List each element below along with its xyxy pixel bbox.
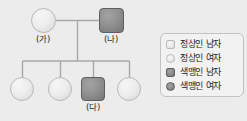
label-parent-female: (가) — [20, 34, 66, 44]
symbol-circle-normal — [117, 77, 141, 101]
legend-swatch-circle-affected-icon — [166, 82, 175, 91]
legend-label-affected-female: 색맹인 여자 — [180, 81, 221, 92]
person-child-3-male — [81, 77, 105, 101]
legend-swatch-square-affected-icon — [166, 68, 175, 77]
symbol-square-affected — [99, 8, 124, 33]
person-child-1-female — [10, 77, 34, 101]
symbol-circle-normal — [31, 8, 56, 33]
person-parent-female — [31, 8, 56, 33]
pedigree-figure: (가) (나) (다) 정상인 남자 정상인 여자 색맹인 남자 색맹 — [0, 0, 247, 121]
legend-item-normal-male: 정상인 남자 — [166, 37, 243, 51]
legend-swatch-circle-normal-icon — [166, 54, 175, 63]
symbol-circle-normal — [10, 77, 34, 101]
symbol-square-affected — [81, 77, 105, 101]
label-child-male: (다) — [70, 102, 116, 112]
legend-item-normal-female: 정상인 여자 — [166, 51, 243, 65]
person-child-4-female — [117, 77, 141, 101]
legend-swatch-square-normal-icon — [166, 40, 175, 49]
label-parent-male: (나) — [88, 34, 134, 44]
legend-label-affected-male: 색맹인 남자 — [180, 67, 221, 78]
symbol-circle-normal — [48, 77, 72, 101]
legend-item-affected-male: 색맹인 남자 — [166, 65, 243, 79]
person-child-2-female — [48, 77, 72, 101]
person-parent-male — [99, 8, 124, 33]
legend-item-affected-female: 색맹인 여자 — [166, 79, 243, 93]
legend-label-normal-female: 정상인 여자 — [180, 53, 221, 64]
legend-box: 정상인 남자 정상인 여자 색맹인 남자 색맹인 여자 — [160, 33, 244, 97]
legend-label-normal-male: 정상인 남자 — [180, 39, 221, 50]
